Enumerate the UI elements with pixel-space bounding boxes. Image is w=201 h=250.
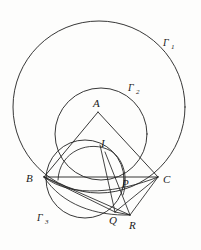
label-I: I bbox=[100, 137, 106, 149]
svg-text:Γ: Γ bbox=[36, 212, 43, 223]
label-B: B bbox=[26, 172, 33, 184]
label-A: A bbox=[92, 97, 100, 109]
label-gamma-3: Γ 3 bbox=[36, 212, 49, 226]
label-gamma-2: Γ 2 bbox=[127, 82, 140, 96]
label-R: R bbox=[128, 219, 136, 231]
side-AB bbox=[44, 112, 98, 177]
label-P: P bbox=[121, 177, 129, 189]
label-Q: Q bbox=[109, 214, 117, 226]
circle-gamma-2 bbox=[55, 88, 147, 180]
svg-text:Γ: Γ bbox=[162, 37, 169, 48]
line-B-to-Q bbox=[44, 177, 115, 212]
svg-text:3: 3 bbox=[44, 218, 49, 226]
geometry-figure: A B C I P Q R Γ 1 Γ 2 Γ 3 bbox=[0, 0, 201, 250]
svg-text:1: 1 bbox=[171, 43, 175, 51]
side-AC bbox=[98, 112, 158, 177]
svg-text:Γ: Γ bbox=[127, 82, 134, 93]
svg-text:2: 2 bbox=[136, 88, 140, 96]
label-C: C bbox=[163, 173, 171, 185]
label-gamma-1: Γ 1 bbox=[162, 37, 175, 51]
